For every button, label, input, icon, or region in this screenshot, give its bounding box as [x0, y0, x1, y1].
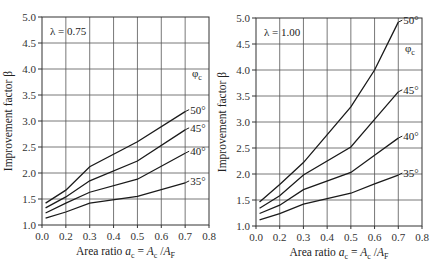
x-axis-label: Area ratio ac = Ac /AF — [290, 246, 389, 261]
y-axis-ticks: 1.01.52.02.53.03.54.04.55.0 — [22, 11, 42, 231]
y-tick-label: 1.5 — [236, 194, 250, 206]
series-label: 40° — [190, 145, 205, 157]
y-tick-label: 3.0 — [22, 115, 36, 127]
y-tick-label: 4.0 — [22, 63, 36, 75]
y-tick-label: 4.0 — [236, 64, 250, 76]
y-tick-label: 1.5 — [22, 193, 36, 205]
lambda-annotation: λ = 1.00 — [264, 26, 301, 38]
y-tick-label: 2.5 — [236, 142, 250, 154]
series-line-45deg — [260, 92, 399, 208]
series-label: 35° — [190, 175, 205, 187]
grid — [42, 17, 209, 225]
x-tick-label: 0.7 — [178, 230, 192, 242]
series-line-40deg — [260, 138, 399, 213]
y-tick-label: 5.0 — [22, 11, 36, 23]
lambda-annotation: λ = 0.75 — [50, 25, 87, 37]
series-line-45deg — [46, 130, 186, 208]
x-tick-label: 0.7 — [391, 231, 405, 243]
series-label: 35° — [403, 167, 418, 179]
x-tick-label: 0.6 — [154, 230, 168, 242]
x-tick-label: 0.5 — [131, 230, 145, 242]
figure-two-panel-line-chart: 1.01.52.02.53.03.54.04.55.00.00.20.30.40… — [0, 0, 438, 272]
series-label: 40° — [403, 130, 418, 142]
x-tick-label: 0.3 — [83, 230, 97, 242]
y-tick-label: 2.5 — [22, 141, 36, 153]
y-tick-label: 2.0 — [22, 167, 36, 179]
y-axis-label: Improvement factor β — [2, 71, 15, 172]
y-tick-label: 4.5 — [22, 37, 36, 49]
x-axis-label: Area ratio ac = Ac /AF — [76, 245, 175, 260]
series-line-40deg — [46, 153, 186, 213]
x-tick-label: 0.4 — [107, 230, 121, 242]
series-label: 45° — [403, 84, 418, 96]
x-tick-label: 0.2 — [273, 231, 287, 243]
series-label: 50° — [190, 104, 205, 116]
chart-panel-right: 1.01.52.02.53.03.54.04.55.00.00.20.30.40… — [216, 12, 429, 261]
x-tick-label: 0.5 — [344, 231, 358, 243]
x-tick-label: 0.0 — [35, 230, 49, 242]
chart-panel-left: 1.01.52.02.53.03.54.04.55.00.00.20.30.40… — [2, 11, 216, 260]
x-tick-label: 0.8 — [202, 230, 216, 242]
y-tick-label: 4.5 — [236, 38, 250, 50]
y-tick-label: 2.0 — [236, 168, 250, 180]
series-line-35deg — [260, 175, 399, 220]
series-label: 45° — [190, 122, 205, 134]
y-tick-label: 3.0 — [236, 116, 250, 128]
series-line-35deg — [46, 183, 186, 218]
x-tick-label: 0.8 — [415, 231, 429, 243]
y-axis-label: Improvement factor β — [216, 72, 229, 173]
y-tick-label: 5.0 — [236, 12, 250, 24]
x-tick-label: 0.6 — [368, 231, 382, 243]
y-axis-ticks: 1.01.52.02.53.03.54.04.55.0 — [236, 12, 256, 232]
x-axis-ticks: 0.00.20.30.40.50.60.70.8 — [35, 225, 216, 242]
series-label: 50° — [403, 14, 418, 26]
x-tick-label: 0.2 — [59, 230, 73, 242]
x-tick-label: 0.0 — [249, 231, 263, 243]
x-tick-label: 0.3 — [297, 231, 311, 243]
y-tick-label: 3.5 — [22, 89, 36, 101]
x-tick-label: 0.4 — [320, 231, 334, 243]
series-lines: 50°45°40°35° — [260, 14, 419, 220]
series-line-50deg — [260, 22, 399, 202]
y-tick-label: 3.5 — [236, 90, 250, 102]
x-axis-ticks: 0.00.20.30.40.50.60.70.8 — [249, 226, 429, 243]
